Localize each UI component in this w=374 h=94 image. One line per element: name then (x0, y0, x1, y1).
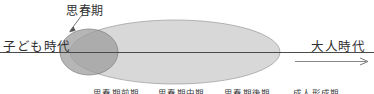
puberty-callout-label: 思春期 (66, 1, 104, 19)
stage-label-3: 成人形成期 (293, 86, 340, 94)
axis-left-label: 子ども時代 (3, 36, 71, 55)
developmental-timeline-diagram: 子ども時代 大人時代 思春期 思春期前期 思春期中期 思春期後期 成人形成期 (0, 0, 374, 94)
stage-label-2: 思春期後期 (224, 86, 271, 94)
axis-right-label: 大人時代 (311, 36, 365, 55)
stage-label-1: 思春期中期 (158, 86, 205, 94)
stage-label-0: 思春期前期 (93, 86, 140, 94)
